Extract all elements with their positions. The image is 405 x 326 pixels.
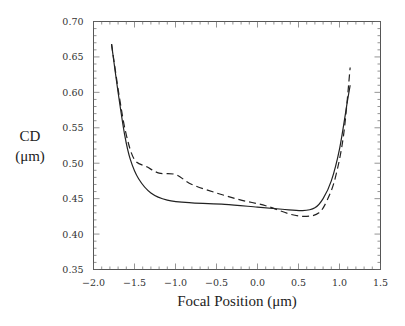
- y-tick-label: 0.50: [62, 158, 83, 169]
- y-axis-label-line1: CD: [20, 128, 41, 144]
- x-axis-tick-labels: −2.0−1.5−1.0−0.50.00.51.01.5: [82, 277, 388, 288]
- cd-focus-chart: −2.0−1.5−1.0−0.50.00.51.01.5 0.350.400.4…: [0, 0, 405, 326]
- y-tick-label: 0.35: [62, 264, 83, 275]
- x-tick-label: 0.0: [250, 277, 265, 288]
- y-tick-label: 0.70: [62, 16, 83, 27]
- y-tick-label: 0.65: [62, 51, 83, 62]
- y-tick-label: 0.55: [62, 122, 83, 133]
- x-axis-label: Focal Position (μm): [177, 293, 297, 310]
- x-tick-label: −1.5: [123, 277, 146, 288]
- y-axis-label-line2: (μm): [15, 148, 45, 165]
- x-tick-label: 0.5: [291, 277, 306, 288]
- x-tick-label: −2.0: [82, 277, 105, 288]
- solid-curve: [112, 44, 351, 211]
- x-tick-label: −0.5: [205, 277, 228, 288]
- x-tick-label: −1.0: [164, 277, 187, 288]
- y-tick-label: 0.45: [62, 193, 83, 204]
- plot-frame: [94, 22, 381, 270]
- y-axis-tick-labels: 0.350.400.450.500.550.600.650.70: [62, 16, 83, 275]
- axis-ticks: [94, 22, 381, 270]
- y-tick-label: 0.40: [62, 229, 83, 240]
- x-tick-label: 1.0: [332, 277, 347, 288]
- x-tick-label: 1.5: [373, 277, 388, 288]
- y-tick-label: 0.60: [62, 87, 83, 98]
